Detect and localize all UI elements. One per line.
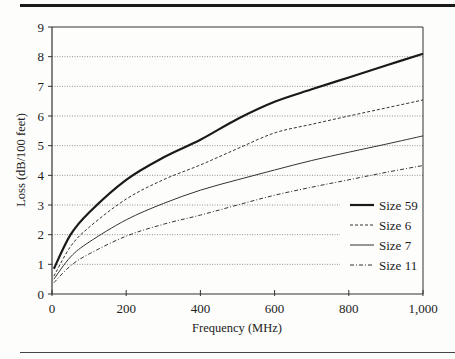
x-tick-label: 800 (339, 301, 359, 316)
line-chart: 0123456789 02004006008001,000 Frequency … (0, 0, 455, 359)
legend-item-size-6: Size 6 (350, 218, 412, 233)
legend: Size 59 Size 6 Size 7 Size 11 (350, 198, 418, 273)
y-tick-label: 8 (38, 49, 45, 64)
y-tick-label: 0 (38, 287, 45, 302)
legend-label: Size 6 (379, 218, 412, 233)
legend-label: Size 59 (379, 198, 418, 213)
legend-label: Size 11 (379, 258, 417, 273)
x-tick-label: 1,000 (408, 301, 437, 316)
y-tick-label: 5 (38, 138, 45, 153)
x-tick-label: 400 (191, 301, 211, 316)
y-tick-label: 6 (38, 109, 45, 124)
gridlines (52, 57, 423, 265)
x-tick-label: 0 (49, 301, 56, 316)
x-tick-label: 600 (265, 301, 285, 316)
legend-item-size-11: Size 11 (350, 258, 417, 273)
y-tick-label: 2 (38, 227, 45, 242)
x-axis-title: Frequency (MHz) (192, 321, 282, 335)
y-tick-label: 3 (38, 198, 45, 213)
series-size-11 (54, 166, 423, 283)
series-lines (54, 54, 423, 283)
y-tick-label: 7 (38, 79, 45, 94)
y-tick-label: 1 (38, 257, 45, 272)
y-tick-label: 9 (38, 20, 45, 35)
legend-item-size-59: Size 59 (350, 198, 418, 213)
series-size-7 (54, 136, 423, 279)
y-axis-title: Loss (dB/100 feet) (14, 113, 28, 207)
legend-item-size-7: Size 7 (350, 238, 412, 253)
y-axis-ticks: 0123456789 (38, 20, 53, 302)
x-tick-label: 200 (116, 301, 136, 316)
plot-frame (52, 27, 423, 294)
series-size-6 (54, 100, 423, 276)
legend-label: Size 7 (379, 238, 412, 253)
y-tick-label: 4 (38, 168, 45, 183)
